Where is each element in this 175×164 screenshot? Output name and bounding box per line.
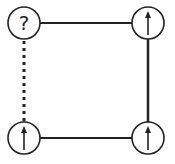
question-mark-label: ?: [19, 11, 30, 35]
node-bottom-right: [132, 122, 164, 154]
node-bottom-left: [8, 122, 40, 154]
square-lattice-diagram: ?: [0, 0, 175, 164]
node-top-right: [132, 7, 164, 39]
node-top-left: ?: [8, 7, 40, 39]
